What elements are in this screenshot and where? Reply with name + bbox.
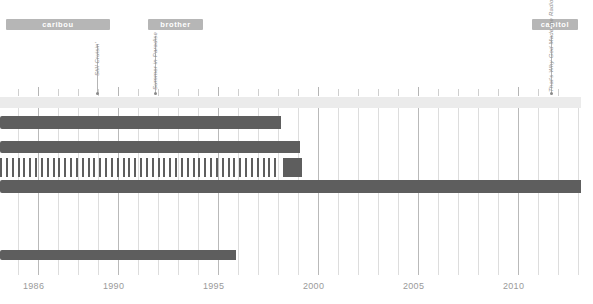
- tour-stripe: [233, 158, 235, 177]
- tour-stripe: [0, 158, 2, 177]
- tour-stripe: [222, 158, 224, 177]
- tick-1998: [278, 89, 279, 96]
- tick-1986: [38, 87, 39, 96]
- tour-stripe: [23, 158, 25, 177]
- tour-stripe: [263, 158, 265, 177]
- tour-stripe: [152, 158, 154, 177]
- tour-stripe: [146, 158, 148, 177]
- tour-stripe: [187, 158, 189, 177]
- tick-1992: [158, 89, 159, 96]
- tour-stripe: [134, 158, 136, 177]
- plot-area: caribou brother capitol Still Cruisin' S…: [0, 0, 593, 304]
- tour-stripe: [123, 158, 125, 177]
- tour-stripe: [198, 158, 200, 177]
- tick-1995: [218, 87, 219, 96]
- tour-stripe: [251, 158, 253, 177]
- tour-stripe: [193, 158, 195, 177]
- tick-1996: [238, 89, 239, 96]
- tour-stripe: [29, 158, 31, 177]
- tick-2002: [358, 89, 359, 96]
- year-label-2010: 2010: [503, 281, 524, 291]
- tour-stripe: [41, 158, 43, 177]
- tour-stripe: [239, 158, 241, 177]
- tour-stripe-row[interactable]: [0, 158, 280, 177]
- tour-stripe: [105, 158, 107, 177]
- tour-stripe: [181, 158, 183, 177]
- tick-2012: [558, 89, 559, 96]
- tour-stripe: [228, 158, 230, 177]
- tick-2003: [378, 89, 379, 96]
- tour-stripe: [99, 158, 101, 177]
- year-label-1990: 1990: [103, 281, 124, 291]
- tour-stripe: [64, 158, 66, 177]
- tick-1997: [258, 89, 259, 96]
- tour-stripe: [274, 158, 276, 177]
- tick-2005: [418, 87, 419, 96]
- tour-stripe: [204, 158, 206, 177]
- header-band: [0, 97, 581, 108]
- tick-1991: [138, 89, 139, 96]
- annotation-label-thats-why-god-made-the-radio: That's Why God Made the Radio: [548, 0, 554, 92]
- year-label-2005: 2005: [403, 281, 424, 291]
- tour-stripe: [210, 158, 212, 177]
- tour-stripe: [58, 158, 60, 177]
- annotation-label-summer-in-paradise: Summer in Paradise: [152, 32, 158, 90]
- tour-stripe: [6, 158, 8, 177]
- tour-stripe: [35, 158, 37, 177]
- tour-stripe: [175, 158, 177, 177]
- tick-1994: [198, 89, 199, 96]
- annotation-dot-1: [96, 92, 99, 95]
- tick-1999: [298, 89, 299, 96]
- label-chip-brother[interactable]: brother: [148, 19, 203, 30]
- annotation-label-still-cruisin: Still Cruisin': [94, 42, 100, 76]
- tour-stripe: [53, 158, 55, 177]
- tick-1990: [118, 87, 119, 96]
- tour-stripe: [245, 158, 247, 177]
- tour-stripe: [158, 158, 160, 177]
- tick-2006: [438, 89, 439, 96]
- tour-stripe: [257, 158, 259, 177]
- tour-block[interactable]: [283, 158, 302, 177]
- tour-stripe: [70, 158, 72, 177]
- tour-stripe: [117, 158, 119, 177]
- tour-stripe: [12, 158, 14, 177]
- tick-2008: [478, 89, 479, 96]
- tour-stripe: [47, 158, 49, 177]
- tour-stripe: [140, 158, 142, 177]
- tick-2004: [398, 89, 399, 96]
- year-label-1995: 1995: [203, 281, 224, 291]
- tour-stripe: [169, 158, 171, 177]
- tour-stripe: [82, 158, 84, 177]
- era-bar-2[interactable]: [0, 141, 300, 153]
- label-chip-caribou[interactable]: caribou: [6, 19, 110, 30]
- tick-2011: [538, 89, 539, 96]
- era-bar-1[interactable]: [0, 116, 281, 129]
- tour-stripe: [18, 158, 20, 177]
- tick-2010: [518, 87, 519, 96]
- tick-1985: [18, 89, 19, 96]
- tick-2001: [338, 89, 339, 96]
- tour-stripe: [88, 158, 90, 177]
- tick-2007: [458, 89, 459, 96]
- tick-1988: [78, 89, 79, 96]
- year-label-2000: 2000: [303, 281, 324, 291]
- tour-stripe: [111, 158, 113, 177]
- year-label-1986: 1986: [23, 281, 44, 291]
- tick-2000: [318, 87, 319, 96]
- label-chip-capitol[interactable]: capitol: [532, 19, 578, 30]
- tick-1993: [178, 89, 179, 96]
- tour-stripe: [76, 158, 78, 177]
- tour-stripe: [216, 158, 218, 177]
- tick-2009: [498, 89, 499, 96]
- annotation-dot-2: [154, 92, 157, 95]
- timeline-chart: caribou brother capitol Still Cruisin' S…: [0, 0, 593, 304]
- era-bar-4[interactable]: [0, 250, 236, 260]
- annotation-dot-3: [550, 92, 553, 95]
- tour-stripe: [128, 158, 130, 177]
- tick-1987: [58, 89, 59, 96]
- tour-stripe: [93, 158, 95, 177]
- tour-stripe: [268, 158, 270, 177]
- tour-stripe: [163, 158, 165, 177]
- era-bar-3[interactable]: [0, 180, 581, 193]
